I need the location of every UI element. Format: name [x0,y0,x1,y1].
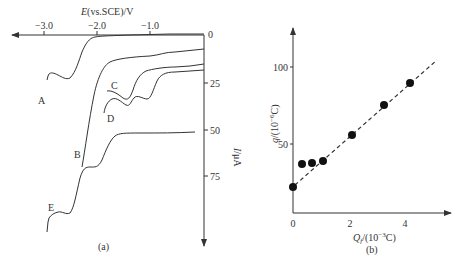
data-point [298,160,306,168]
panel-b-caption: (b) [366,244,378,256]
data-point [406,79,414,87]
panel-a: −3.0 −2.0 −1.0 0 E(vs.SCE)/V 25 50 75 I/… [12,6,243,253]
panel-b-xtick-4: 4 [403,218,408,229]
panel-a-xlabel: E(vs.SCE)/V [80,6,134,18]
panel-a-xtick-0: −3.0 [35,20,53,31]
panel-b-fit-line [295,60,437,185]
panel-a-ytick-75: 75 [210,171,220,182]
data-point [380,101,388,109]
panel-b-xtick-2: 2 [348,218,353,229]
curve-d [104,70,204,113]
data-point [308,159,316,167]
panel-a-ytick-50: 50 [210,125,220,136]
panel-b-ylabel: q/(10−6C) [268,104,281,143]
figure: −3.0 −2.0 −1.0 0 E(vs.SCE)/V 25 50 75 I/… [0,0,458,260]
panel-a-xtick-3: 0 [208,29,213,40]
panel-a-ylabel: I/μA [232,147,243,167]
curve-label-a: A [38,95,46,106]
panel-a-xtick-2: −1.0 [141,20,159,31]
panel-a-caption: (a) [98,241,109,253]
data-point [348,131,356,139]
panel-a-ytick-25: 25 [210,78,220,89]
panel-b-ytick-100: 100 [273,62,288,73]
panel-b-xlabel: Qf/(10−3C) [353,231,396,245]
data-point [289,183,297,191]
panel-b-xtick-0: 0 [291,218,296,229]
curve-label-d: D [107,113,114,124]
curve-a [47,34,204,80]
curve-label-e: E [48,202,54,213]
data-point [319,157,327,165]
curve-label-c: C [111,80,118,91]
curve-c [107,64,204,99]
curve-e [47,132,195,232]
panel-a-xtick-1: −2.0 [88,20,106,31]
curve-label-b: B [74,149,81,160]
panel-b: 100 50 0 2 4 q/(10−6C) Qf/(10−3C) (b) [268,28,451,256]
